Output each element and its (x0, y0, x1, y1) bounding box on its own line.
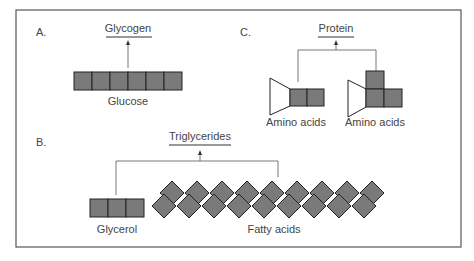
amino-group-triangle (348, 80, 366, 117)
fatty-acid-chain (152, 181, 384, 218)
amino-acid-branched: Amino acids (345, 71, 405, 128)
glycogen-label: Glycogen (105, 22, 151, 34)
panel-a: A. Glycogen Glucose (36, 22, 182, 107)
glycerol-chain (90, 199, 144, 217)
glucose-label: Glucose (108, 95, 148, 107)
panel-c-letter: C. (240, 26, 251, 38)
glucose-chain (74, 72, 182, 90)
arrow-up-icon (198, 150, 202, 155)
macromolecule-diagram: A. Glycogen Glucose C. Protein Amino aci… (0, 0, 474, 261)
protein-label: Protein (319, 22, 354, 34)
panel-b-letter: B. (36, 136, 46, 148)
protein-bracket (298, 50, 376, 82)
panel-c: C. Protein Amino acids Amino acids (240, 22, 405, 128)
amino-acids-label-right: Amino acids (345, 116, 405, 128)
triglycerides-label: Triglycerides (169, 130, 231, 142)
glycerol-label: Glycerol (97, 223, 137, 235)
panel-b: B. Triglycerides Glycerol (36, 130, 384, 235)
amino-acid-linear: Amino acids (266, 78, 326, 128)
amino-acids-label-left: Amino acids (266, 116, 326, 128)
panel-a-letter: A. (36, 26, 46, 38)
amino-group-triangle (270, 78, 290, 115)
arrow-up-icon (126, 40, 130, 45)
arrow-up-icon (334, 40, 338, 45)
fatty-acids-label: Fatty acids (247, 223, 301, 235)
